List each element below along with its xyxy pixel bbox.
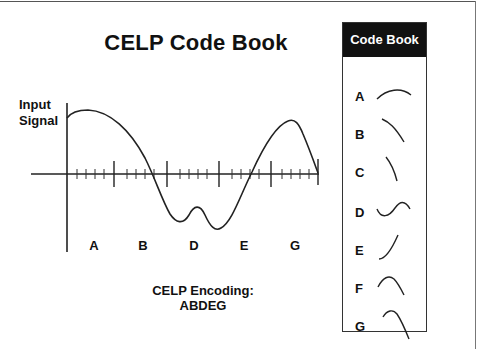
rising-curve-icon xyxy=(373,231,423,269)
entry-letter: G xyxy=(355,319,365,334)
segment-label-b: B xyxy=(133,238,153,253)
steep-fall-icon xyxy=(373,153,423,191)
peak-fall-icon xyxy=(373,307,423,345)
entry-letter: A xyxy=(355,89,364,104)
code-book-entry-d: D xyxy=(343,193,428,231)
peak-icon xyxy=(373,269,423,307)
code-book-header: Code Book xyxy=(343,23,426,57)
code-book-entry-b: B xyxy=(343,115,428,153)
encoding-label: CELP Encoding: xyxy=(128,283,278,298)
segment-label-a: A xyxy=(84,238,104,253)
code-book-entry-f: F xyxy=(343,269,428,307)
arch-waveform-icon xyxy=(373,77,423,115)
entry-letter: D xyxy=(355,205,364,220)
entry-letter: F xyxy=(355,281,363,296)
segment-label-e: E xyxy=(234,238,254,253)
code-book-panel: Code Book A B C D E F G xyxy=(342,22,427,332)
encoding-value: ABDEG xyxy=(128,298,278,313)
code-book-entry-a: A xyxy=(343,77,428,115)
entry-letter: C xyxy=(355,165,364,180)
entry-letter: B xyxy=(355,127,364,142)
code-book-entry-g: G xyxy=(343,307,428,345)
falling-curve-icon xyxy=(373,115,423,153)
entry-letter: E xyxy=(355,243,364,258)
input-signal-waveform xyxy=(67,110,318,229)
s-wave-icon xyxy=(373,193,423,231)
segment-label-g: G xyxy=(285,238,305,253)
segment-label-d: D xyxy=(184,238,204,253)
code-book-entry-e: E xyxy=(343,231,428,269)
code-book-entry-c: C xyxy=(343,153,428,191)
celp-encoding: CELP Encoding: ABDEG xyxy=(128,283,278,313)
